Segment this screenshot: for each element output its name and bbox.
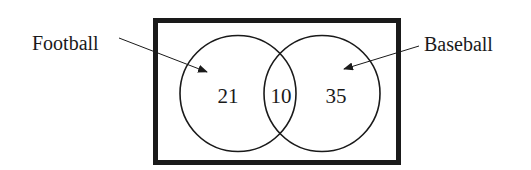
baseball-arrow bbox=[344, 46, 419, 69]
baseball-only-count: 35 bbox=[326, 84, 347, 108]
venn-diagram: Football Baseball 21 10 35 bbox=[0, 0, 531, 170]
intersection-count: 10 bbox=[271, 84, 292, 108]
football-label: Football bbox=[32, 32, 99, 54]
baseball-label: Baseball bbox=[424, 33, 493, 55]
football-only-count: 21 bbox=[218, 84, 239, 108]
